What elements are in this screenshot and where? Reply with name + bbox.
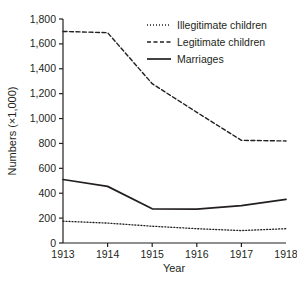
y-tick-label: 1,200 bbox=[30, 87, 56, 99]
x-tick-label: 1918 bbox=[274, 248, 297, 260]
y-axis-title: Numbers (×1,000) bbox=[6, 87, 18, 176]
legend-label: Illegitimate children bbox=[177, 19, 267, 31]
y-tick-label: 1,600 bbox=[30, 37, 56, 49]
x-tick-label: 1915 bbox=[141, 248, 165, 260]
x-tick-label: 1917 bbox=[230, 248, 254, 260]
y-tick-label: 200 bbox=[38, 212, 56, 224]
y-tick-label: 1,400 bbox=[30, 62, 56, 74]
y-tick-label: 1,000 bbox=[30, 112, 56, 124]
x-tick-label: 1916 bbox=[185, 248, 209, 260]
chart-figure: 02004006008001,0001,2001,4001,6001,800 1… bbox=[0, 0, 297, 281]
y-tick-label: 400 bbox=[38, 187, 56, 199]
y-tick-label: 0 bbox=[50, 237, 56, 249]
legend-label: Legitimate children bbox=[177, 36, 265, 48]
y-tick-label: 1,800 bbox=[30, 13, 56, 25]
line-chart: 02004006008001,0001,2001,4001,6001,800 1… bbox=[0, 0, 297, 281]
x-axis-title: Year bbox=[163, 262, 186, 274]
y-tick-label: 600 bbox=[38, 162, 56, 174]
y-tick-label: 800 bbox=[38, 137, 56, 149]
x-tick-label: 1914 bbox=[96, 248, 120, 260]
x-tick-label: 1913 bbox=[51, 248, 75, 260]
legend-label: Marriages bbox=[177, 53, 224, 65]
